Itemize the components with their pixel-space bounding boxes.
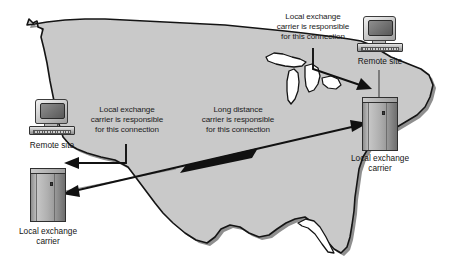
left-remote-site-label: Remote site xyxy=(14,140,90,150)
left-remote-site-computer[interactable] xyxy=(29,99,75,135)
left-lec-label-line1: Local exchange xyxy=(3,226,93,236)
keyboard-icon xyxy=(33,130,71,134)
center-note-line2: carrier is responsible xyxy=(196,115,280,125)
top-right-local-exchange-note: Local exchange carrier is responsible fo… xyxy=(271,12,355,43)
left-note-line1: Local exchange xyxy=(85,105,169,115)
crt-screen xyxy=(40,103,65,119)
right-remote-site-computer[interactable] xyxy=(357,16,403,52)
right-local-exchange-carrier-label: Local exchange carrier xyxy=(335,153,425,173)
center-note-line1: Long distance xyxy=(196,105,280,115)
computer-base-unit xyxy=(29,126,75,135)
right-note-line1: Local exchange xyxy=(271,12,355,22)
center-long-distance-note: Long distance carrier is responsible for… xyxy=(196,105,280,136)
right-remote-site-label: Remote site xyxy=(342,56,418,66)
center-note-line3: for this connection xyxy=(196,125,280,135)
server-body xyxy=(362,102,398,151)
left-local-exchange-carrier-label: Local exchange carrier xyxy=(3,226,93,246)
server-body xyxy=(30,173,66,222)
left-local-loop-arrowhead xyxy=(64,157,79,169)
left-note-line2: carrier is responsible xyxy=(85,115,169,125)
left-local-exchange-note: Local exchange carrier is responsible fo… xyxy=(85,105,169,136)
left-note-line3: for this connection xyxy=(85,125,169,135)
right-note-line3: for this connection xyxy=(271,32,355,42)
server-led-icon xyxy=(382,111,385,115)
crt-screen xyxy=(368,20,393,36)
server-led-icon xyxy=(50,182,53,186)
left-local-exchange-carrier-server[interactable] xyxy=(30,168,66,222)
keyboard-icon xyxy=(361,47,399,51)
computer-base-unit xyxy=(357,43,403,52)
crt-monitor-icon xyxy=(363,16,396,41)
right-lec-label-line2: carrier xyxy=(335,163,425,173)
left-lec-label-line2: carrier xyxy=(3,236,93,246)
right-local-exchange-carrier-server[interactable] xyxy=(362,97,398,151)
right-lec-label-line1: Local exchange xyxy=(335,153,425,163)
crt-monitor-icon xyxy=(35,99,68,124)
diagram-canvas: Remote site Local exchange carrier Remot… xyxy=(0,0,454,271)
right-note-line2: carrier is responsible xyxy=(271,22,355,32)
